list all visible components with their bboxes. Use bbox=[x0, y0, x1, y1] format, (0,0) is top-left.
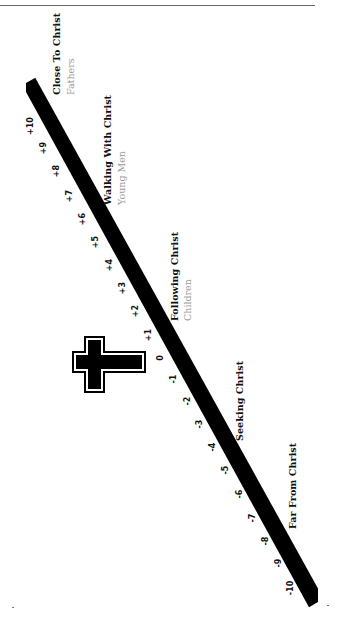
tick-label: +1 bbox=[145, 329, 153, 341]
tick-label: -8 bbox=[262, 537, 270, 546]
stage-title: Close To Christ bbox=[52, 13, 62, 95]
tick-label: +8 bbox=[53, 165, 61, 177]
tick-label: +5 bbox=[92, 236, 100, 248]
stage-title: Following Christ bbox=[170, 232, 180, 321]
tick-label: -6 bbox=[236, 490, 244, 499]
scan-speck bbox=[12, 607, 14, 608]
tick-label: -1 bbox=[170, 375, 178, 384]
tick-label: -4 bbox=[209, 443, 217, 452]
tick-label: +9 bbox=[40, 142, 48, 154]
tick-label: -10 bbox=[287, 581, 295, 595]
scan-speck bbox=[327, 605, 329, 606]
tick-label: +7 bbox=[66, 190, 74, 202]
stage-subtitle: Young Men bbox=[117, 151, 127, 205]
stage-title: Seeking Christ bbox=[235, 361, 245, 441]
stage-subtitle: Children bbox=[183, 279, 193, 321]
cross-icon bbox=[72, 336, 146, 393]
tick-label: -7 bbox=[249, 514, 257, 523]
tick-label: +4 bbox=[106, 259, 114, 271]
tick-label: -3 bbox=[196, 420, 204, 429]
tick-label: +10 bbox=[27, 117, 35, 135]
scale-bar bbox=[26, 78, 318, 608]
tick-label: -5 bbox=[222, 466, 230, 475]
tick-label: +3 bbox=[119, 282, 127, 294]
scale-diagram: +10+9+8+7+6+5+4+3+2+10-1-2-3-4-5-6-7-8-9… bbox=[0, 0, 343, 624]
stage-subtitle: Fathers bbox=[66, 58, 76, 95]
tick-label: +6 bbox=[79, 213, 87, 225]
tick-label: -9 bbox=[275, 559, 283, 568]
tick-label: -2 bbox=[184, 397, 192, 406]
tick-label: +2 bbox=[132, 305, 140, 317]
stage-title: Far From Christ bbox=[288, 443, 298, 529]
stage-title: Walking With Christ bbox=[103, 95, 113, 205]
tick-label: 0 bbox=[157, 355, 165, 361]
